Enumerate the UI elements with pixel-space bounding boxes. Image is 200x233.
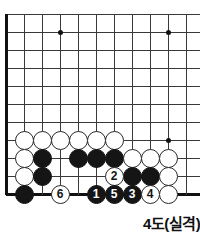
board-left-edge (5, 14, 8, 195)
grid-line-vertical (96, 14, 97, 195)
stone-white[interactable] (159, 167, 178, 186)
stone-white[interactable] (87, 131, 106, 150)
stone-white[interactable] (123, 149, 142, 168)
stone-black[interactable] (33, 167, 52, 186)
stone-black[interactable] (15, 185, 34, 204)
stone-black[interactable] (105, 149, 124, 168)
numbered-stone-white-2[interactable]: 2 (105, 167, 124, 186)
grid-line-vertical (186, 14, 187, 195)
move-number: 6 (57, 188, 64, 200)
grid-line-vertical (60, 14, 61, 195)
move-number: 5 (111, 188, 118, 200)
numbered-stone-white-6[interactable]: 6 (51, 185, 70, 204)
star-point (166, 30, 171, 35)
stone-white[interactable] (15, 131, 34, 150)
move-number: 1 (93, 188, 100, 200)
stone-black[interactable] (123, 167, 142, 186)
stone-white[interactable] (105, 131, 124, 150)
grid-line-horizontal (6, 14, 200, 15)
stone-white[interactable] (159, 149, 178, 168)
stone-white[interactable] (51, 131, 70, 150)
numbered-stone-black-5[interactable]: 5 (105, 185, 124, 204)
grid-line-horizontal (6, 86, 200, 87)
grid-line-horizontal (6, 104, 200, 105)
stone-white[interactable] (69, 131, 88, 150)
go-board: 261534 (0, 0, 200, 233)
grid-line-vertical (78, 14, 79, 195)
numbered-stone-black-3[interactable]: 3 (123, 185, 142, 204)
move-number: 4 (147, 188, 154, 200)
stone-white[interactable] (141, 149, 160, 168)
move-number: 2 (111, 170, 118, 182)
stone-black[interactable] (69, 149, 88, 168)
grid-line-horizontal (6, 68, 200, 69)
numbered-stone-white-4[interactable]: 4 (141, 185, 160, 204)
grid-line-horizontal (6, 122, 200, 123)
stone-black[interactable] (33, 149, 52, 168)
stone-black[interactable] (87, 149, 106, 168)
diagram-caption: 4도(실격) (143, 212, 200, 233)
star-point (166, 138, 171, 143)
stone-white[interactable] (15, 149, 34, 168)
star-point (58, 30, 63, 35)
stone-white[interactable] (15, 167, 34, 186)
stone-white[interactable] (33, 131, 52, 150)
stone-white[interactable] (159, 185, 178, 204)
go-diagram-figure: 261534 4도(실격) (0, 0, 200, 233)
grid-line-horizontal (6, 50, 200, 51)
stone-black[interactable] (141, 167, 160, 186)
numbered-stone-black-1[interactable]: 1 (87, 185, 106, 204)
move-number: 3 (129, 188, 136, 200)
